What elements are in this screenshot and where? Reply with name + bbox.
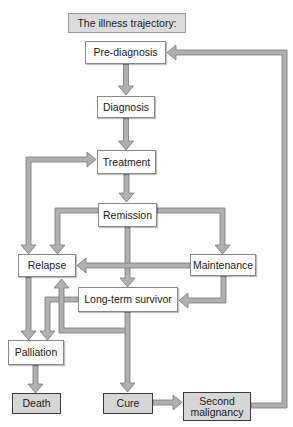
node-remission: Remission: [98, 203, 157, 227]
node-palliation: Palliation: [8, 340, 64, 365]
node-treatment: Treatment: [97, 150, 156, 174]
arrow-maint-lts: [179, 276, 226, 308]
node-maintenance: Maintenance: [190, 254, 256, 276]
node-long-term-survivor: Long-term survivor: [78, 287, 178, 312]
node-diagnosis: Diagnosis: [97, 96, 155, 118]
node-pre-diagnosis: Pre-diagnosis: [85, 41, 166, 64]
illness-trajectory-diagram: The illness trajectory: Pre-diagnosis Di…: [0, 0, 293, 427]
arrow-second-prediag: [167, 45, 287, 408]
node-second-malignancy: Second malignancy: [183, 392, 251, 421]
arrow-cure-second: [153, 395, 182, 410]
second-malignancy-line1: Second: [199, 396, 235, 407]
arrow-pall-death: [28, 365, 43, 393]
arrow-rem-lts: [120, 227, 135, 287]
diagram-title: The illness trajectory:: [68, 13, 186, 33]
arrow-rem-relapse: [50, 208, 98, 254]
node-relapse: Relapse: [18, 254, 76, 277]
arrow-rem-maint: [157, 208, 230, 254]
arrow-prediag-diag: [119, 64, 134, 95]
node-cure: Cure: [103, 393, 153, 414]
node-death: Death: [12, 393, 61, 414]
second-malignancy-line2: malignancy: [190, 407, 243, 418]
arrow-treat-rem: [119, 174, 134, 202]
arrow-lts-cure: [120, 312, 135, 392]
arrow-maint-relapse: [77, 258, 190, 273]
arrow-diag-treat: [119, 118, 134, 150]
arrow-relapse-pall: [21, 277, 36, 340]
